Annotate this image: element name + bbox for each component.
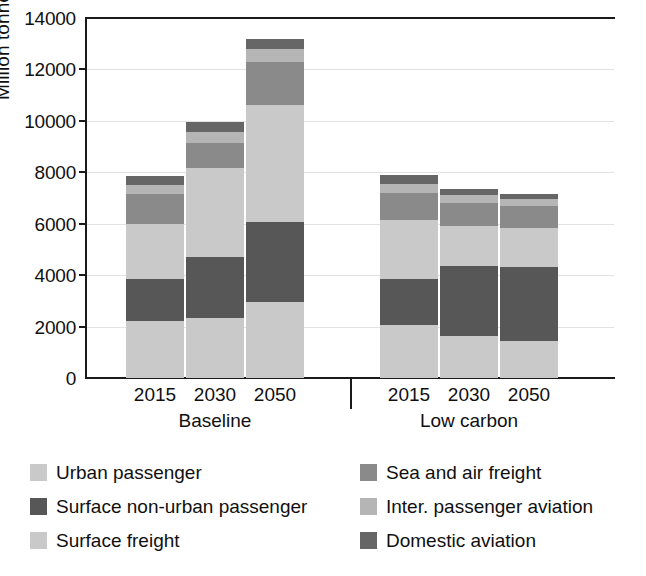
legend-swatch-icon bbox=[30, 464, 47, 481]
bar-segment-3[interactable] bbox=[246, 62, 304, 106]
bar-segment-0[interactable] bbox=[380, 325, 438, 378]
y-tick-mark-4000 bbox=[79, 274, 87, 276]
bar-lowcarbon-2050[interactable] bbox=[500, 194, 558, 378]
bar-segment-4[interactable] bbox=[380, 184, 438, 193]
bar-segment-3[interactable] bbox=[440, 203, 498, 226]
y-tick-label-6000: 6000 bbox=[35, 214, 76, 233]
bar-segment-2[interactable] bbox=[186, 168, 244, 257]
bar-segment-0[interactable] bbox=[246, 302, 304, 378]
bar-baseline-2050[interactable] bbox=[246, 39, 304, 378]
legend-swatch-icon bbox=[30, 498, 47, 515]
bar-baseline-2015[interactable] bbox=[126, 176, 184, 378]
bar-segment-3[interactable] bbox=[126, 194, 184, 224]
bar-segment-5[interactable] bbox=[500, 194, 558, 199]
bar-segment-0[interactable] bbox=[440, 336, 498, 378]
bar-segment-1[interactable] bbox=[126, 279, 184, 321]
legend-item-inter-passenger-aviation[interactable]: Inter. passenger aviation bbox=[360, 496, 593, 517]
y-tick-mark-6000 bbox=[79, 223, 87, 225]
bar-segment-0[interactable] bbox=[126, 321, 184, 378]
y-tick-label-12000: 12000 bbox=[24, 60, 76, 79]
bar-segment-2[interactable] bbox=[126, 224, 184, 279]
legend-item-surface-non-urban-passenger[interactable]: Surface non-urban passenger bbox=[30, 496, 307, 517]
bar-segment-5[interactable] bbox=[380, 175, 438, 184]
y-tick-label-8000: 8000 bbox=[35, 163, 76, 182]
legend-item-urban-passenger[interactable]: Urban passenger bbox=[30, 462, 202, 483]
bar-baseline-2030[interactable] bbox=[186, 122, 244, 378]
bar-segment-3[interactable] bbox=[380, 193, 438, 220]
bar-segment-3[interactable] bbox=[186, 143, 244, 169]
legend-item-surface-freight[interactable]: Surface freight bbox=[30, 530, 180, 551]
bar-segment-2[interactable] bbox=[500, 228, 558, 268]
bar-segment-5[interactable] bbox=[126, 176, 184, 185]
bar-segment-0[interactable] bbox=[186, 318, 244, 378]
x-tick-label-baseline-2050: 2050 bbox=[235, 384, 315, 406]
bar-segment-1[interactable] bbox=[500, 267, 558, 340]
bar-segment-4[interactable] bbox=[440, 195, 498, 203]
legend-label: Domestic aviation bbox=[386, 530, 536, 551]
y-tick-mark-10000 bbox=[79, 120, 87, 122]
bar-lowcarbon-2030[interactable] bbox=[440, 189, 498, 378]
legend-label: Urban passenger bbox=[56, 462, 202, 483]
y-tick-label-10000: 10000 bbox=[24, 111, 76, 130]
y-tick-mark-8000 bbox=[79, 171, 87, 173]
y-tick-label-0: 0 bbox=[66, 369, 76, 388]
x-tick-label-lowcarbon-2050: 2050 bbox=[489, 384, 569, 406]
plot-area bbox=[86, 18, 614, 378]
group-label-baseline: Baseline bbox=[105, 410, 325, 432]
bar-segment-0[interactable] bbox=[500, 341, 558, 378]
legend-item-domestic-aviation[interactable]: Domestic aviation bbox=[360, 530, 536, 551]
chart-legend: Urban passengerSurface non-urban passeng… bbox=[0, 462, 646, 566]
legend-swatch-icon bbox=[360, 532, 377, 549]
gridline-8000 bbox=[86, 172, 614, 173]
legend-swatch-icon bbox=[30, 532, 47, 549]
bar-segment-1[interactable] bbox=[380, 279, 438, 325]
bar-segment-1[interactable] bbox=[440, 266, 498, 335]
y-tick-label-4000: 4000 bbox=[35, 266, 76, 285]
bar-segment-3[interactable] bbox=[500, 206, 558, 228]
legend-label: Surface freight bbox=[56, 530, 180, 551]
y-tick-mark-12000 bbox=[79, 68, 87, 70]
y-tick-label-14000: 14000 bbox=[24, 9, 76, 28]
bar-segment-1[interactable] bbox=[246, 222, 304, 302]
y-tick-mark-2000 bbox=[79, 326, 87, 328]
bar-segment-2[interactable] bbox=[246, 105, 304, 222]
bar-segment-5[interactable] bbox=[246, 39, 304, 49]
bar-segment-4[interactable] bbox=[126, 185, 184, 194]
group-label-low-carbon: Low carbon bbox=[359, 410, 579, 432]
legend-label: Surface non-urban passenger bbox=[56, 496, 307, 517]
gridline-12000 bbox=[86, 69, 614, 70]
legend-item-sea-and-air-freight[interactable]: Sea and air freight bbox=[360, 462, 541, 483]
gridline-10000 bbox=[86, 121, 614, 122]
bar-segment-2[interactable] bbox=[380, 220, 438, 279]
bar-segment-4[interactable] bbox=[500, 199, 558, 205]
bar-segment-1[interactable] bbox=[186, 257, 244, 317]
bar-segment-2[interactable] bbox=[440, 226, 498, 266]
bar-segment-5[interactable] bbox=[186, 122, 244, 132]
bar-lowcarbon-2015[interactable] bbox=[380, 175, 438, 378]
bar-segment-5[interactable] bbox=[440, 189, 498, 195]
legend-label: Sea and air freight bbox=[386, 462, 541, 483]
bar-segment-4[interactable] bbox=[186, 132, 244, 142]
y-tick-label-2000: 2000 bbox=[35, 317, 76, 336]
chart-figure: Million tonnes 0200040006000800010000120… bbox=[0, 0, 646, 576]
legend-swatch-icon bbox=[360, 498, 377, 515]
bar-segment-4[interactable] bbox=[246, 49, 304, 62]
y-axis-tick-labels: 02000400060008000100001200014000 bbox=[0, 0, 84, 400]
group-divider bbox=[350, 379, 352, 409]
legend-swatch-icon bbox=[360, 464, 377, 481]
legend-label: Inter. passenger aviation bbox=[386, 496, 593, 517]
